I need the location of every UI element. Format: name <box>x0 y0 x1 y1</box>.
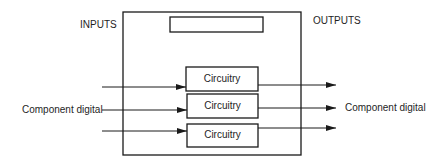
circuitry-box-2-label: Circuitry <box>187 100 258 112</box>
output-signal-label: Component digital <box>345 102 426 114</box>
signal-flow-diagram: INPUTS OUTPUTS Component digital Compone… <box>0 0 440 162</box>
input-signal-label: Component digital <box>22 104 103 116</box>
circuitry-box-3-label: Circuitry <box>187 129 258 141</box>
top-blank-box <box>170 17 263 32</box>
inputs-label: INPUTS <box>80 19 117 31</box>
outputs-label: OUTPUTS <box>313 15 361 27</box>
circuitry-box-1-label: Circuitry <box>186 73 258 85</box>
